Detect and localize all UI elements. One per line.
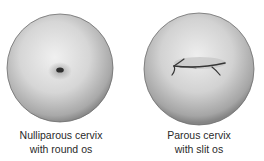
caption-line-1: Parous cervix — [142, 128, 256, 142]
caption-line-2: with slit os — [142, 142, 256, 156]
parous-cervix — [144, 13, 254, 125]
caption-line-2: with round os — [0, 142, 122, 156]
round-os — [56, 67, 64, 72]
parous-cervix-caption: Parous cervix with slit os — [142, 128, 256, 156]
caption-line-1: Nulliparous cervix — [0, 128, 122, 142]
nulliparous-cervix — [7, 14, 113, 122]
nulliparous-cervix-caption: Nulliparous cervix with round os — [0, 128, 122, 156]
